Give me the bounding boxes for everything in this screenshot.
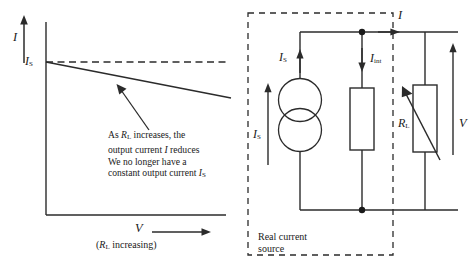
annotation-line-1: As RL increases, the xyxy=(108,129,206,144)
load-resistor-label: RL xyxy=(398,116,410,131)
figure-canvas: I IS V (RL increasing) As RL increases, … xyxy=(0,0,475,275)
x-axis-arrow-icon xyxy=(152,228,211,236)
top-junction-node xyxy=(359,29,365,35)
branch-current-label: IS xyxy=(279,50,287,65)
graph-annotation: As RL increases, the output current I re… xyxy=(108,129,206,182)
annotation-line-1-a: As xyxy=(108,129,121,140)
real-source-box-label: Real current source xyxy=(258,231,307,254)
voltage-arrow-icon xyxy=(449,43,456,155)
source-current-arrow-icon xyxy=(264,83,271,165)
output-current-arrow-icon xyxy=(378,28,400,35)
source-current-label-sub: S xyxy=(257,133,261,141)
branch-current-arrow-icon xyxy=(296,49,303,73)
x-axis-sublabel-rest: increasing) xyxy=(110,239,157,250)
branch-current-label-sub: S xyxy=(283,56,287,64)
x-axis-label: V xyxy=(135,221,143,236)
real-source-box-label-line1: Real current xyxy=(258,231,307,243)
x-axis-sublabel: (RL increasing) xyxy=(96,239,157,254)
y-axis-tick-label-sub: S xyxy=(29,60,33,68)
internal-current-label-sub: int xyxy=(374,57,381,65)
load-resistor-label-sub: L xyxy=(405,122,409,130)
current-source-circle-lower xyxy=(279,109,322,152)
annotation-line-1-b: increases, the xyxy=(131,129,185,140)
annotation-line-3: We no longer have a xyxy=(108,156,206,168)
y-axis-label: I xyxy=(13,30,17,45)
bottom-junction-node xyxy=(359,207,365,213)
output-current-label: I xyxy=(398,8,402,23)
source-current-label: IS xyxy=(253,127,261,142)
real-output-curve xyxy=(46,62,231,98)
real-source-box-label-line2: source xyxy=(258,243,307,255)
internal-current-label: Iint xyxy=(370,51,381,66)
internal-resistor-body xyxy=(350,88,374,150)
annotation-line-4-i-sub: S xyxy=(202,171,206,179)
y-axis-tick-label-is: IS xyxy=(25,54,33,69)
annotation-line-2-a: output current xyxy=(108,144,164,155)
annotation-line-4-a: constant output current xyxy=(108,167,199,178)
voltage-label: V xyxy=(459,116,467,131)
internal-current-arrow-icon xyxy=(358,48,365,72)
annotation-line-2: output current I reduces xyxy=(108,144,206,156)
annotation-line-2-b: reduces xyxy=(168,144,200,155)
annotation-pointer-arrow-icon xyxy=(117,84,150,130)
load-resistor-body xyxy=(413,85,437,152)
annotation-line-4: constant output current IS xyxy=(108,167,206,182)
